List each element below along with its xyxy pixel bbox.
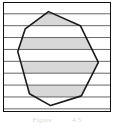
figure-block: Figure 4.5 [0,0,114,128]
figure-caption: Figure 4.5 [0,116,114,124]
caption-number: 4.5 [72,116,81,124]
figure-frame [3,2,111,112]
caption-label: Figure [33,116,52,124]
polygon-band-plot [4,3,110,111]
